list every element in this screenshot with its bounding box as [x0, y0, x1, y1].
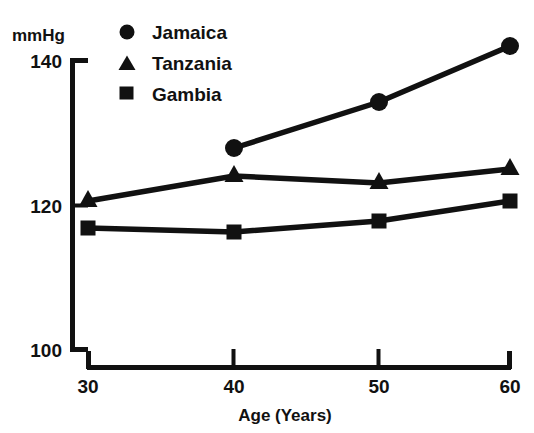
legend-label-jamaica: Jamaica	[152, 22, 227, 43]
gambia-point-age-40	[227, 225, 242, 240]
gambia-point-age-50	[372, 214, 387, 229]
blood-pressure-line-chart: mmHg 140 120 100 30 40 50 60 Age (Years)…	[0, 0, 534, 433]
jamaica-point-age-40	[225, 139, 243, 157]
triangle-icon	[119, 56, 136, 71]
series-tanzania	[79, 158, 520, 207]
chart-svg: mmHg 140 120 100 30 40 50 60 Age (Years)…	[0, 0, 534, 433]
legend-item-jamaica: Jamaica	[120, 22, 228, 43]
x-axis-title: Age (Years)	[238, 406, 332, 425]
series-gambia	[81, 194, 518, 240]
x-tick-label-60: 60	[499, 376, 520, 397]
x-tick-label-40: 40	[223, 376, 244, 397]
tanzania-point-age-60	[501, 158, 520, 175]
gambia-line	[88, 201, 510, 232]
square-icon	[120, 87, 134, 100]
series-jamaica	[225, 37, 519, 157]
gambia-point-age-30	[81, 221, 96, 236]
x-tick-label-30: 30	[77, 376, 98, 397]
gambia-point-age-60	[503, 194, 518, 209]
x-axis	[87, 349, 511, 369]
y-tick-label-140: 140	[30, 51, 62, 72]
x-tick-label-50: 50	[368, 376, 389, 397]
y-axis-unit-label: mmHg	[12, 26, 65, 45]
legend-label-tanzania: Tanzania	[152, 53, 232, 74]
circle-icon	[120, 25, 135, 40]
y-tick-label-120: 120	[30, 196, 62, 217]
legend-item-tanzania: Tanzania	[119, 53, 233, 74]
y-tick-label-100: 100	[30, 340, 62, 361]
tanzania-line	[88, 169, 510, 201]
legend: Jamaica Tanzania Gambia	[119, 22, 233, 105]
jamaica-point-age-60	[501, 37, 519, 55]
legend-item-gambia: Gambia	[120, 84, 223, 105]
jamaica-point-age-50	[370, 93, 388, 111]
legend-label-gambia: Gambia	[152, 84, 222, 105]
tanzania-point-age-40	[225, 165, 244, 182]
